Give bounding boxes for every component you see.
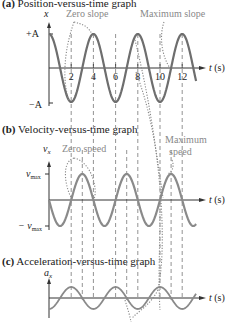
- t-axis-label-a: t (s): [209, 62, 225, 74]
- maximum-speed-label-1: Maximum: [165, 134, 207, 145]
- maximum-slope-label: Maximum slope: [140, 8, 206, 19]
- tick-label: 12: [177, 71, 187, 82]
- title-velocity: (b) Velocity-versus-time graph: [2, 123, 138, 136]
- tick-label: 6: [113, 71, 118, 82]
- tick-label: 2: [69, 71, 74, 82]
- t-axis-label-c: t (s): [209, 292, 225, 304]
- zero-speed-label: Zero speed: [62, 143, 106, 154]
- tick-label: 4: [91, 71, 96, 82]
- tick-label: 10: [155, 71, 165, 82]
- x-axis-label: x: [43, 8, 49, 19]
- acceleration-axes: [49, 283, 200, 318]
- vx-axis-label: vx: [43, 143, 51, 156]
- shm-diagram: (a) Position-versus-time graph (b) Veloc…: [0, 0, 242, 322]
- t-axis-label-b: t (s): [209, 194, 225, 206]
- t-axis-arrow-icon: [199, 296, 206, 300]
- t-axis-arrow-icon: [199, 198, 206, 202]
- zero-slope-label: Zero slope: [66, 8, 109, 19]
- vx-axis-arrow-icon: [47, 161, 51, 167]
- x-axis-arrow-icon: [47, 22, 51, 28]
- title-acceleration: (c) Acceleration-versus-time graph: [2, 255, 156, 268]
- annotation-pointers: [65, 22, 173, 322]
- plus-a-label: +A: [26, 28, 40, 39]
- ax-axis-label: ax: [44, 267, 53, 280]
- minus-a-label: −A: [29, 99, 43, 110]
- minus-vmax-label: − vmax: [18, 220, 42, 232]
- maximum-speed-label-2: speed: [169, 146, 192, 157]
- position-axes: [49, 26, 200, 106]
- vmax-label: vmax: [26, 168, 41, 180]
- t-axis-arrow-icon: [199, 66, 206, 70]
- velocity-axes: [45, 166, 200, 230]
